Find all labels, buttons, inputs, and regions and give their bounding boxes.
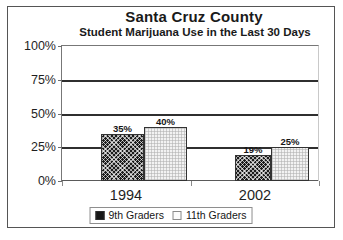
ytick-label-100: 100% [24, 39, 56, 53]
xtick-mark-left [62, 181, 63, 186]
bar-1994-9th-graders: 35% [101, 134, 144, 181]
ytick-label-25: 25% [31, 140, 56, 154]
bar-2002-9th-graders: 19% [235, 155, 271, 181]
bar-value-2002-11th-graders: 25% [280, 136, 299, 147]
ytick-mark-25 [58, 147, 62, 148]
title-block: Santa Cruz County Student Marijuana Use … [8, 8, 334, 39]
ytick-mark-100 [58, 46, 62, 47]
bar-value-2002-9th-graders: 19% [243, 144, 262, 155]
legend-entry-11th-graders: 11th Graders [173, 209, 247, 221]
chart-figure: Santa Cruz County Student Marijuana Use … [7, 6, 335, 228]
legend-swatch-light-icon [173, 211, 182, 220]
chart-title: Santa Cruz County [60, 8, 328, 25]
ytick-mark-50 [58, 114, 62, 115]
plot-area: 100% 75% 50% 25% 0% 35% 40% 19% 25% 1994… [61, 45, 319, 181]
chart-legend: 9th Graders 11th Graders [90, 207, 253, 224]
xtick-mark-right [319, 181, 320, 186]
bar-1994-11th-graders: 40% [144, 127, 187, 181]
xcat-label-2002: 2002 [239, 187, 271, 203]
bar-2002-11th-graders: 25% [271, 147, 309, 181]
bar-value-1994-9th-graders: 35% [113, 123, 132, 134]
legend-entry-9th-graders: 9th Graders [96, 209, 164, 221]
ytick-label-75: 75% [31, 73, 56, 87]
ytick-mark-75 [58, 80, 62, 81]
legend-swatch-dark-icon [96, 211, 105, 220]
chart-subtitle: Student Marijuana Use in the Last 30 Day… [60, 25, 330, 39]
gridline-50 [62, 114, 318, 116]
ytick-label-0: 0% [38, 174, 56, 188]
ytick-label-50: 50% [31, 107, 56, 121]
legend-label-9th-graders: 9th Graders [109, 209, 164, 221]
xcat-label-1994: 1994 [110, 187, 142, 203]
gridline-75 [62, 80, 318, 82]
legend-label-11th-graders: 11th Graders [186, 209, 247, 221]
xtick-mark-middle [191, 181, 192, 186]
bar-value-1994-11th-graders: 40% [156, 116, 175, 127]
